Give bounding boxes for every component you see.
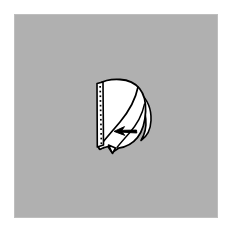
- perforation-dot: [99, 86, 101, 88]
- perforation-dot: [100, 128, 102, 130]
- figure-canvas: Folded paper form with perforated edge a…: [0, 0, 234, 238]
- folding-diagram: Folded paper form with perforated edge a…: [0, 0, 234, 238]
- perforation-dot: [101, 142, 103, 144]
- perforation-dot: [100, 114, 102, 116]
- perforation-dot: [100, 124, 102, 126]
- perforation-dot: [100, 138, 102, 140]
- perforation-dot: [99, 91, 101, 93]
- perforation-dot: [100, 95, 102, 97]
- perforation-dot: [100, 133, 102, 135]
- perforation-dot: [100, 119, 102, 121]
- perforated-strip: [97, 82, 104, 147]
- perforation-dot: [100, 110, 102, 112]
- perforation-dot: [100, 105, 102, 107]
- perforation-dot: [100, 100, 102, 102]
